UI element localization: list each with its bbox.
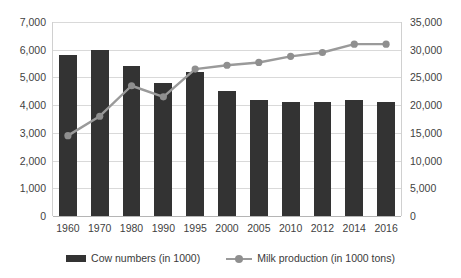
left-tick-label: 5,000 bbox=[20, 72, 46, 82]
line-marker-2000 bbox=[223, 62, 230, 69]
right-tick-label: 0 bbox=[410, 211, 416, 221]
x-label-2014: 2014 bbox=[338, 222, 370, 234]
right-tick-label: 35,000 bbox=[410, 17, 442, 27]
left-tick-label: 3,000 bbox=[20, 128, 46, 138]
x-label-2016: 2016 bbox=[370, 222, 402, 234]
left-tick-label: 2,000 bbox=[20, 156, 46, 166]
line-marker-1990 bbox=[160, 93, 167, 100]
line-marker-2014 bbox=[351, 41, 358, 48]
right-tick-label: 5,000 bbox=[410, 183, 436, 193]
x-label-1995: 1995 bbox=[179, 222, 211, 234]
line-marker-2016 bbox=[382, 41, 389, 48]
x-label-1960: 1960 bbox=[52, 222, 84, 234]
line-marker-1960 bbox=[64, 132, 71, 139]
line-series-milk-production bbox=[52, 22, 402, 216]
left-tick-label: 7,000 bbox=[20, 17, 46, 27]
legend-label-milk-production: Milk production (in 1000 tons) bbox=[257, 252, 395, 264]
right-tick-label: 30,000 bbox=[410, 45, 442, 55]
milk-production-line bbox=[68, 44, 386, 135]
line-marker-swatch-icon bbox=[226, 254, 252, 263]
left-tick-label: 6,000 bbox=[20, 45, 46, 55]
x-label-2012: 2012 bbox=[307, 222, 339, 234]
line-marker-1995 bbox=[192, 66, 199, 73]
bar-swatch-icon bbox=[66, 255, 86, 262]
line-marker-2005 bbox=[255, 59, 262, 66]
line-marker-1970 bbox=[96, 113, 103, 120]
legend-item-cow-numbers: Cow numbers (in 1000) bbox=[66, 252, 200, 264]
x-label-1990: 1990 bbox=[147, 222, 179, 234]
line-marker-1980 bbox=[128, 82, 135, 89]
left-tick-label: 1,000 bbox=[20, 183, 46, 193]
right-tick-label: 20,000 bbox=[410, 100, 442, 110]
right-tick-label: 15,000 bbox=[410, 128, 442, 138]
left-tick-label: 0 bbox=[40, 211, 46, 221]
x-axis-category-labels: 1960197019801990199520002005201020122014… bbox=[52, 222, 402, 238]
x-label-1980: 1980 bbox=[116, 222, 148, 234]
x-label-1970: 1970 bbox=[84, 222, 116, 234]
chart-legend: Cow numbers (in 1000) Milk production (i… bbox=[0, 252, 461, 264]
x-label-2005: 2005 bbox=[243, 222, 275, 234]
combo-chart: 01,0002,0003,0004,0005,0006,0007,000 05,… bbox=[0, 0, 461, 278]
right-tick-label: 25,000 bbox=[410, 72, 442, 82]
line-marker-2012 bbox=[319, 49, 326, 56]
legend-item-milk-production: Milk production (in 1000 tons) bbox=[226, 252, 395, 264]
right-tick-label: 10,000 bbox=[410, 156, 442, 166]
legend-label-cow-numbers: Cow numbers (in 1000) bbox=[91, 252, 200, 264]
left-tick-label: 4,000 bbox=[20, 100, 46, 110]
axis-baseline bbox=[53, 216, 401, 217]
line-marker-2010 bbox=[287, 53, 294, 60]
x-label-2000: 2000 bbox=[211, 222, 243, 234]
x-label-2010: 2010 bbox=[275, 222, 307, 234]
